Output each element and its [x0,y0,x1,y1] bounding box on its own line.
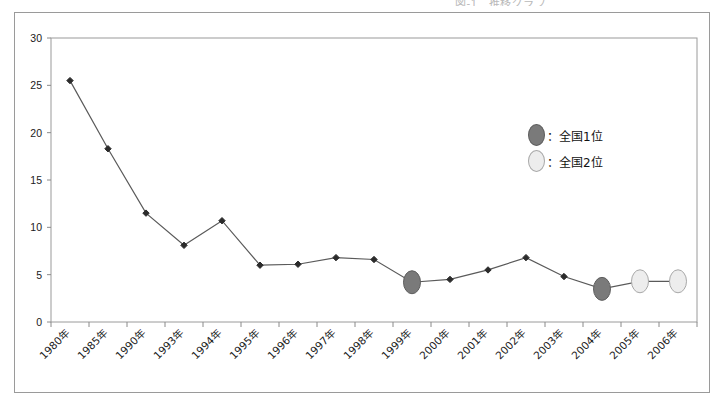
x-tick-label-8: 1998年 [341,327,375,361]
legend-label-rank2: ：全国2位 [547,153,603,170]
data-point-marker-1998年 [371,256,377,262]
y-tick-label-25: 25 [30,79,42,91]
legend-item-rank2: ：全国2位 [528,148,678,174]
y-tick-label-30: 30 [30,32,42,44]
y-tick-label-0: 0 [36,316,42,328]
legend-label-rank1: ：全国1位 [547,127,603,144]
legend-marker-rank1-icon [528,124,545,146]
data-point-marker-2002年 [523,254,529,260]
legend-marker-rank2-icon [528,150,545,172]
x-tick-label-0: 1980年 [37,327,71,361]
chart-canvas: 0510152025301980年1985年1990年1993年1994年199… [0,0,728,399]
x-tick-label-10: 2000年 [417,327,451,361]
chart-legend: ：全国1位 ：全国2位 [528,122,678,174]
line-chart-svg: 0510152025301980年1985年1990年1993年1994年199… [0,0,728,399]
x-tick-label-16: 2006年 [645,327,679,361]
data-point-marker-2000年 [447,276,453,282]
data-point-marker-1997年 [333,254,339,260]
x-tick-label-5: 1995年 [227,327,261,361]
data-point-marker-1985年 [105,146,111,152]
x-tick-label-15: 2005年 [607,327,641,361]
x-tick-label-1: 1985年 [75,327,109,361]
x-tick-label-6: 1996年 [265,327,299,361]
data-point-marker-2003年 [561,273,567,279]
data-point-marker-1996年 [295,261,301,267]
data-point-highlight-rank2-2006年 [670,270,687,293]
x-tick-label-4: 1994年 [189,327,223,361]
x-tick-label-7: 1997年 [303,327,337,361]
y-tick-label-5: 5 [36,269,42,281]
data-point-highlight-rank1-1999年 [404,271,421,294]
y-tick-label-15: 15 [30,174,42,186]
legend-item-rank1: ：全国1位 [528,122,678,148]
x-tick-label-13: 2003年 [531,327,565,361]
data-point-highlight-rank2-2005年 [632,270,649,293]
x-tick-label-9: 1999年 [379,327,413,361]
x-tick-label-3: 1993年 [151,327,185,361]
data-point-marker-1980年 [67,77,73,83]
x-tick-label-11: 2001年 [455,327,489,361]
x-tick-label-2: 1990年 [113,327,147,361]
y-tick-label-10: 10 [30,221,42,233]
x-tick-label-12: 2002年 [493,327,527,361]
data-point-marker-2001年 [485,267,491,273]
data-point-highlight-rank1-2004年 [594,277,611,300]
x-tick-label-14: 2004年 [569,327,603,361]
y-tick-label-20: 20 [30,127,42,139]
